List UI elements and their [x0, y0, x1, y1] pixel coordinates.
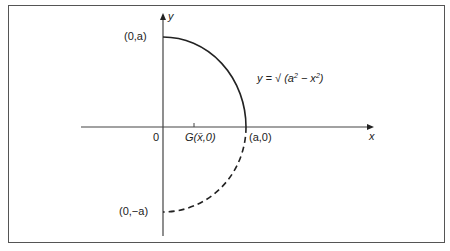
solid-arc — [163, 37, 246, 127]
centroid-label: G(x̄,0) — [185, 132, 216, 143]
y-axis-label: y — [168, 11, 174, 22]
origin-label: 0 — [153, 132, 159, 143]
point-top-label: (0,a) — [124, 31, 147, 42]
point-right-label: (a,0) — [249, 132, 272, 143]
y-axis-arrow-icon — [160, 13, 166, 20]
x-axis-label: x — [369, 131, 375, 142]
curve-equation: y = √ (a2 − x2) — [257, 72, 323, 84]
point-bottom-label: (0,−a) — [119, 206, 148, 217]
diagram-canvas — [0, 0, 450, 251]
